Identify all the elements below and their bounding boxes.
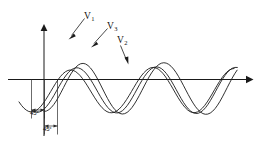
waveform-label-v3-text: V bbox=[107, 21, 114, 31]
leader-v2-arrowhead bbox=[125, 56, 129, 64]
waveform-label-v2-text: V bbox=[117, 35, 124, 45]
waveform-label-v2: V2 bbox=[117, 36, 127, 46]
time-axis-arrowhead bbox=[246, 76, 254, 83]
waveform-label-v3: V3 bbox=[107, 22, 117, 32]
waveform-label-v3-subscript: 3 bbox=[114, 25, 117, 32]
amplitude-axis-arrowhead bbox=[41, 24, 48, 31]
leader-v3 bbox=[91, 29, 108, 48]
leader-v2 bbox=[121, 46, 129, 65]
angle-label-second: 45° bbox=[43, 126, 51, 132]
leader-v1 bbox=[69, 19, 85, 40]
waveform-label-v2-subscript: 2 bbox=[124, 39, 127, 46]
waveform-label-v1: V1 bbox=[84, 12, 94, 22]
waveform-label-v1-text: V bbox=[84, 11, 91, 21]
angle-label-first: 45° bbox=[30, 110, 38, 116]
waveform-canvas bbox=[0, 0, 259, 152]
waveform-v2 bbox=[44, 63, 237, 115]
waveform-label-v1-subscript: 1 bbox=[91, 15, 94, 22]
waveform-figure: V1 V3 V2 45° 45° bbox=[0, 0, 259, 152]
